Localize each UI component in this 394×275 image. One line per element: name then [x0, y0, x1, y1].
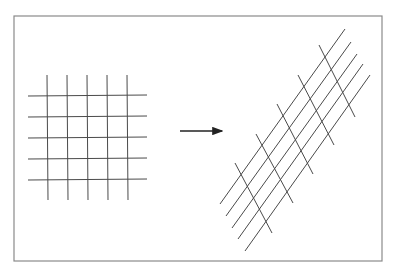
grid-line-horizontal	[28, 179, 147, 180]
deformation-figure	[0, 0, 394, 275]
figure-frame	[14, 16, 382, 261]
deformed-line-short	[298, 75, 334, 145]
undeformed-grid	[28, 75, 147, 200]
grid-line-horizontal	[28, 137, 147, 138]
grid-line-horizontal	[28, 158, 147, 159]
deformed-line-long	[238, 64, 363, 239]
deformed-line-long	[232, 54, 357, 228]
deformed-line-short	[319, 45, 355, 117]
deformed-grid	[220, 29, 370, 251]
grid-line-horizontal	[28, 95, 147, 96]
deformed-line-short	[277, 104, 313, 174]
deformed-line-short	[256, 134, 293, 203]
deformed-line-long	[220, 29, 345, 204]
grid-line-horizontal	[28, 116, 147, 117]
deformed-line-short	[235, 163, 272, 233]
